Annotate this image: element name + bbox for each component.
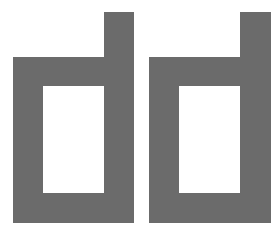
d-bowl-bottom xyxy=(149,193,271,223)
logo-text: dd xyxy=(0,0,1,1)
d-stem xyxy=(240,12,271,223)
d-bowl-bottom xyxy=(13,193,134,223)
d-stem xyxy=(104,12,134,223)
